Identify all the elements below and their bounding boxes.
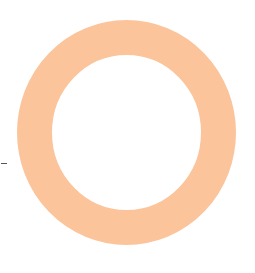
ring-shape — [35, 38, 219, 228]
ring-diagram — [0, 0, 255, 273]
figure-canvas — [0, 0, 255, 273]
dash-mark — [1, 163, 7, 164]
